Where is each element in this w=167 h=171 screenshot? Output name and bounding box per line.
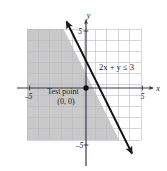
x-axis-label: x: [155, 84, 160, 93]
graph-canvas: x y –5 5 5 –5 2x + y ≤ 3 Test point (0, …: [0, 0, 167, 171]
y-tick-label-pos5: 5: [78, 27, 82, 36]
inequality-graph-figure: x y –5 5 5 –5 2x + y ≤ 3 Test point (0, …: [0, 0, 167, 171]
x-tick-label-pos5: 5: [141, 92, 145, 101]
y-axis-label: y: [86, 11, 91, 20]
test-point-marker: [83, 85, 88, 90]
inequality-label: 2x + y ≤ 3: [99, 62, 134, 72]
x-tick-label-neg5: –5: [24, 92, 33, 101]
test-point-caption: Test point: [47, 87, 79, 96]
test-point-coords: (0, 0): [57, 97, 75, 106]
y-tick-label-neg5: –5: [75, 141, 84, 150]
